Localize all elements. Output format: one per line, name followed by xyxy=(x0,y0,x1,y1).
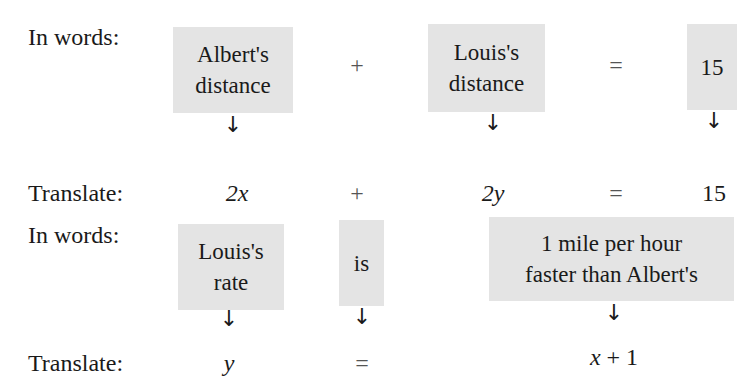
down-arrow-icon: ↓ xyxy=(224,114,242,136)
box-line: 1 mile per hour xyxy=(541,228,682,259)
box-line: Louis's xyxy=(454,37,520,68)
translate-label-1: Translate: xyxy=(28,180,123,207)
box-line: Louis's xyxy=(198,236,264,267)
fifteen-box: 15 xyxy=(687,24,737,110)
down-arrow-icon: ↓ xyxy=(353,306,371,328)
box-line: is xyxy=(354,248,369,279)
in-words-label-1: In words: xyxy=(28,24,119,51)
box-line: faster than Albert's xyxy=(525,259,698,290)
box-line: distance xyxy=(195,70,270,101)
louis-distance-box: Louis's distance xyxy=(428,24,545,112)
term-2x: 2x xyxy=(226,180,249,207)
in-words-label-2: In words: xyxy=(28,222,119,249)
equals-sign: = xyxy=(609,180,623,207)
translate-label-2: Translate: xyxy=(28,350,123,377)
albert-distance-box: Albert's distance xyxy=(173,27,293,113)
equals-sign: = xyxy=(355,350,369,377)
louis-rate-box: Louis's rate xyxy=(178,224,284,310)
term-2y: 2y xyxy=(482,180,505,207)
plus-sign: + xyxy=(350,180,364,207)
box-line: Albert's xyxy=(197,39,269,70)
plus-sign: + xyxy=(350,52,364,79)
box-line: rate xyxy=(214,267,248,298)
down-arrow-icon: ↓ xyxy=(484,112,502,134)
term-x-plus-1: x + 1 xyxy=(590,344,638,371)
down-arrow-icon: ↓ xyxy=(605,302,623,324)
equals-sign: = xyxy=(609,52,623,79)
is-box: is xyxy=(339,220,384,306)
down-arrow-icon: ↓ xyxy=(705,110,723,132)
term-y: y xyxy=(224,350,235,377)
box-line: distance xyxy=(449,68,524,99)
one-mph-faster-box: 1 mile per hour faster than Albert's xyxy=(489,217,734,301)
box-line: 15 xyxy=(701,52,724,83)
down-arrow-icon: ↓ xyxy=(220,308,238,330)
term-15: 15 xyxy=(702,180,726,207)
